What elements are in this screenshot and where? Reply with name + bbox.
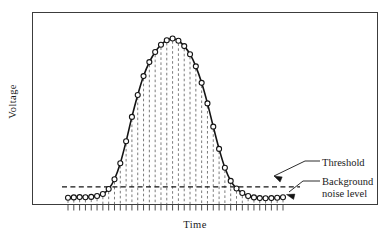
data-point-marker [217, 146, 222, 151]
data-point-marker [182, 44, 187, 49]
data-point-marker [257, 196, 262, 201]
annotation-noise-level-label: noise level [322, 188, 367, 200]
data-point-marker [118, 161, 123, 166]
data-point-marker [269, 196, 274, 201]
data-point-marker [228, 178, 233, 183]
data-point-marker [106, 187, 111, 192]
data-point-marker [170, 36, 175, 41]
annotation-threshold-label: Threshold [322, 157, 365, 169]
data-point-marker [199, 80, 204, 85]
data-point-marker [95, 194, 100, 199]
data-point-marker [240, 191, 245, 196]
data-point-marker [124, 139, 129, 144]
data-point-marker [71, 195, 76, 200]
data-point-marker [246, 194, 251, 199]
data-point-marker [129, 114, 134, 119]
data-point-marker [176, 38, 181, 43]
annotation-background-label: Background [322, 176, 373, 188]
data-point-marker [158, 42, 163, 47]
data-point-marker [275, 195, 280, 200]
data-point-marker [147, 60, 152, 65]
voltage-time-chart [0, 0, 389, 240]
data-point-marker [164, 38, 169, 43]
data-point-marker [83, 195, 88, 200]
data-point-marker [211, 124, 216, 129]
data-point-marker [193, 64, 198, 69]
data-point-marker [89, 194, 94, 199]
data-point-marker [135, 92, 140, 97]
data-point-marker [188, 52, 193, 57]
data-point-marker [263, 196, 268, 201]
data-point-marker [251, 195, 256, 200]
data-point-marker [77, 195, 82, 200]
data-point-marker [100, 192, 105, 197]
data-point-marker [222, 165, 227, 170]
data-point-marker [141, 74, 146, 79]
y-axis-label: Voltage [7, 72, 18, 132]
data-point-marker [112, 177, 117, 182]
data-point-marker [205, 101, 210, 106]
axis-tick-group [68, 205, 283, 211]
chart-figure: Voltage Time Threshold Background noise … [0, 0, 389, 240]
data-point-marker [66, 195, 71, 200]
data-point-marker [234, 186, 239, 191]
x-axis-label: Time [155, 219, 235, 230]
data-point-marker [153, 50, 158, 55]
data-point-marker [281, 195, 286, 200]
